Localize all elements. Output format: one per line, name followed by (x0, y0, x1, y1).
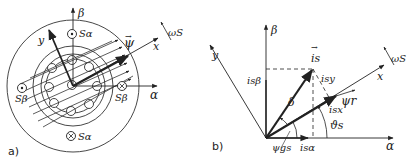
x-label-a: x (153, 40, 160, 53)
diagram-canvas: β α x y ψ → ωS Sα Sα Sβ Sβ a) (0, 0, 415, 168)
i-s-label: is (311, 52, 321, 65)
i-sy-label: isy (321, 73, 335, 84)
i-s-arrow: → (311, 43, 318, 52)
coil-s-beta-right (118, 82, 127, 91)
psi-arrow-a: → (125, 32, 132, 41)
s-alpha-bottom-label: Sα (78, 131, 92, 142)
x-label-b: x (377, 70, 384, 83)
coil-s-beta-left (18, 84, 27, 93)
theta-arc (318, 106, 327, 138)
delta-arc (280, 118, 287, 124)
alpha-label-a: α (150, 88, 158, 102)
psi-r-label: ψr (341, 94, 357, 108)
psi-r-vector (266, 96, 336, 138)
beta-label-a: β (77, 7, 84, 20)
coil-s-alpha-top (68, 30, 77, 39)
i-s-beta-label: isβ (247, 75, 261, 86)
s-beta-left-label: Sβ (15, 93, 28, 104)
psi-gs-label: ψgs (272, 142, 291, 153)
i-s-alpha-label: isα (300, 142, 315, 153)
panel-a-label: a) (8, 145, 19, 158)
beta-label-b: β (270, 24, 277, 37)
panel-b-label: b) (212, 140, 223, 153)
omega-label-a: ωS (168, 27, 183, 38)
theta-s-label: ϑs (330, 119, 344, 132)
y-label-b: y (211, 49, 219, 62)
y-axis-b (210, 45, 266, 138)
s-alpha-top-label: Sα (79, 28, 93, 39)
s-beta-right-label: Sβ (115, 92, 128, 103)
coil-s-alpha-bottom (67, 132, 76, 141)
panel-b: β α x y is → isβ isα isy isx ψr δ ϑs ψgs… (210, 24, 406, 153)
omega-label-b: ωS (391, 53, 406, 64)
y-label-a: y (37, 34, 45, 47)
psi-gs-arc (293, 122, 297, 138)
panel-a: β α x y ψ → ωS Sα Sα Sβ Sβ a) (7, 7, 183, 158)
delta-label: δ (288, 96, 295, 109)
alpha-label-b: α (386, 139, 394, 153)
